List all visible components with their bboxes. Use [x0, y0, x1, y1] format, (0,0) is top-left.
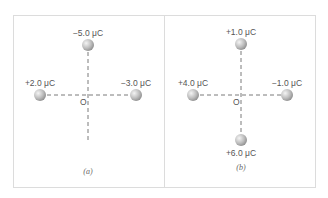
charge-sphere-icon	[281, 89, 293, 101]
panel-caption-b: (b)	[236, 163, 245, 172]
origin-label-b: O	[233, 97, 240, 107]
charge-label-b-top: +1.0 μC	[226, 27, 256, 37]
panel-b-axes	[193, 44, 287, 140]
charge-label-a-top: −5.0 μC	[73, 28, 103, 38]
charge-sphere-icon	[235, 38, 247, 50]
charge-sphere-icon	[82, 39, 94, 51]
charge-label-b-right: −1.0 μC	[272, 78, 302, 88]
charge-label-a-left: +2.0 μC	[25, 78, 55, 88]
charge-diagram	[0, 0, 328, 198]
panel-b-charges	[187, 38, 293, 146]
charge-label-b-bottom: +6.0 μC	[226, 148, 256, 158]
charge-sphere-icon	[235, 134, 247, 146]
charge-sphere-icon	[34, 89, 46, 101]
panel-caption-a: (a)	[83, 167, 92, 176]
charge-sphere-icon	[187, 89, 199, 101]
origin-label-a: O	[80, 97, 87, 107]
charge-label-a-right: −3.0 μC	[121, 78, 151, 88]
charge-label-b-left: +4.0 μC	[178, 78, 208, 88]
charge-sphere-icon	[130, 89, 142, 101]
panel-a-axes	[40, 45, 136, 143]
